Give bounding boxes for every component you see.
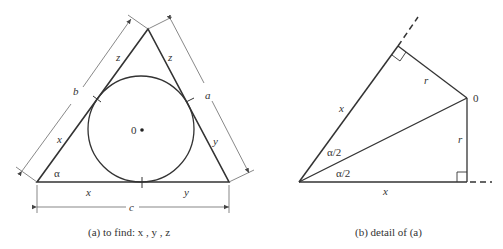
upper-side-line <box>299 46 398 182</box>
dim-a-line <box>171 20 204 83</box>
tangent-tick-left <box>93 96 101 102</box>
right-lower-y-label: y <box>212 135 218 147</box>
right-angle-marker-upper <box>392 52 406 61</box>
right-upper-z-label: z <box>167 51 173 63</box>
bottom-right-y-label: y <box>183 186 189 198</box>
dim-b-ext-top <box>128 15 148 29</box>
half-angle-lower-label: α/2 <box>336 167 350 179</box>
figure-canvas: 0 b a c α z z x y x y (a) to find: x , y… <box>0 0 503 249</box>
lower-x-label: x <box>382 185 388 197</box>
center-label-b: 0 <box>473 92 479 104</box>
dim-a-ext-bottom <box>229 170 254 182</box>
caption-b: (b) detail of (a) <box>355 226 422 239</box>
side-c-label: c <box>129 201 134 213</box>
side-b-label: b <box>73 85 79 97</box>
bisector-line <box>299 98 467 182</box>
side-a-label: a <box>205 89 211 101</box>
center-label: 0 <box>131 124 137 136</box>
dim-a-ext-top <box>148 17 172 29</box>
bottom-left-x-label: x <box>85 186 91 198</box>
dim-b-line <box>22 104 71 171</box>
left-upper-z-label: z <box>115 51 121 63</box>
right-angle-marker-lower <box>457 172 467 182</box>
angle-alpha-label: α <box>54 167 60 179</box>
center-point <box>140 128 144 132</box>
dim-b-ext-bottom <box>16 167 37 182</box>
upper-side-dashed-extension <box>398 17 418 46</box>
caption-a: (a) to find: x , y , z <box>88 226 170 239</box>
dim-b-line-2 <box>83 19 131 87</box>
radius-upper-label: r <box>424 74 429 86</box>
figure-b: 0 r r x x α/2 α/2 (b) detail of (a) <box>299 17 492 239</box>
triangle <box>37 29 229 182</box>
tangent-tick-right <box>186 98 194 102</box>
half-angle-upper-label: α/2 <box>327 146 341 158</box>
radius-upper <box>398 46 467 98</box>
figure-a: 0 b a c α z z x y x y (a) to find: x , y… <box>16 15 254 239</box>
left-lower-x-label: x <box>56 133 62 145</box>
radius-right-label: r <box>458 133 463 145</box>
upper-x-label: x <box>338 102 344 114</box>
